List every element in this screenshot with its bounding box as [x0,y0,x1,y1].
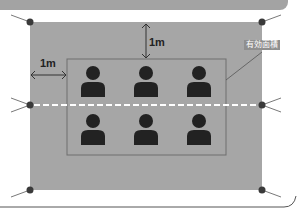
bottom-frame-line [0,196,296,207]
top-distance-label: 1m [149,36,165,48]
effective-area-diagram [0,0,297,210]
effective-area-label: 有効面積 [244,40,280,50]
left-distance-label: 1m [40,57,56,69]
